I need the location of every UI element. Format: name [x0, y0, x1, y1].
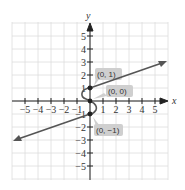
y-tick-label: −4	[75, 148, 86, 159]
x-axis-label: x	[171, 95, 177, 106]
x-tick-label: 3	[127, 104, 132, 115]
x-tick-label: −5	[20, 104, 31, 115]
y-axis-label: y	[85, 10, 91, 21]
x-tick-label: 2	[114, 104, 119, 115]
x-tick-label: −3	[46, 104, 57, 115]
y-tick-label: 4	[81, 44, 86, 55]
y-tick-label: −5	[75, 161, 86, 172]
x-tick-label: −4	[33, 104, 44, 115]
x-tick-label: 1	[101, 104, 106, 115]
point-0-neg1	[88, 112, 93, 117]
y-tick-label: −3	[75, 135, 86, 146]
svg-text:(0, −1): (0, −1)	[96, 126, 120, 135]
y-tick-label: 5	[81, 31, 86, 42]
x-tick-label: 4	[140, 104, 145, 115]
x-tick-label: 5	[153, 104, 158, 115]
svg-text:(0, 1): (0, 1)	[97, 70, 116, 79]
x-axis-arrow-icon	[160, 98, 168, 104]
y-tick-label: −2	[75, 122, 86, 133]
x-tick-label: −2	[59, 104, 70, 115]
y-tick-label: 2	[81, 70, 86, 81]
y-tick-label: 3	[81, 57, 86, 68]
callouts: (0, 1) (0, 0) (0, −1)	[93, 68, 133, 136]
y-axis-arrow-icon	[87, 23, 93, 31]
point-0-1	[88, 86, 93, 91]
graph: x y −5−4−3−2−112345 54321−1−2−3−4−5 (0, …	[0, 0, 185, 190]
svg-text:(0, 0): (0, 0)	[108, 87, 127, 96]
point-0-0	[88, 99, 93, 104]
